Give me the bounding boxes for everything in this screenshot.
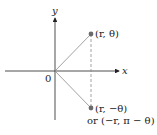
point-upper (89, 32, 94, 37)
point-lower-label: (r, −θ) (95, 103, 127, 114)
y-axis-label: y (51, 5, 58, 16)
ray-upper (55, 34, 91, 71)
point-lower (89, 106, 94, 111)
point-lower-alt-label: or (−r, π − θ) (87, 115, 155, 126)
ray-lower (55, 71, 91, 108)
x-axis-label: x (122, 65, 128, 76)
polar-symmetry-diagram: y x 0 (r, θ) (r, −θ) or (−r, π − θ) (0, 0, 157, 135)
origin-label: 0 (45, 73, 51, 84)
point-upper-label: (r, θ) (95, 28, 119, 39)
